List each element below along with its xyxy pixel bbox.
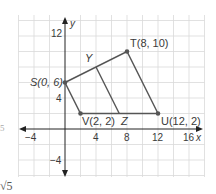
x-tick-neg4: −4	[25, 132, 37, 143]
y-axis-label: y	[69, 18, 76, 29]
x-tick-4: 4	[93, 132, 99, 143]
label-U: U(12, 2)	[161, 115, 201, 127]
label-T: T(8, 10)	[130, 37, 169, 49]
y-tick-neg4: −4	[50, 155, 62, 166]
y-tick-4: 4	[56, 93, 62, 104]
margin-sqrt5: √5	[0, 179, 13, 194]
y-tick-12: 12	[51, 28, 63, 39]
margin-mark: 5	[0, 123, 5, 133]
x-tick-16: 16	[183, 132, 195, 143]
point-S	[63, 80, 68, 85]
label-S: S(0, 6)	[30, 76, 63, 88]
grid	[19, 15, 205, 177]
label-V: V(2, 2)	[82, 115, 115, 127]
x-tick-12: 12	[152, 132, 164, 143]
label-Z: Z	[120, 115, 129, 127]
coordinate-plane: S(0, 6) T(8, 10) U(12, 2) V(2, 2) Y Z −4…	[0, 0, 216, 194]
point-U	[156, 111, 161, 116]
label-Y: Y	[85, 52, 93, 64]
x-axis-label: x	[195, 132, 202, 143]
x-tick-8: 8	[124, 132, 130, 143]
point-T	[125, 49, 130, 54]
segment-YZ	[96, 67, 119, 114]
y-axis-arrow-down-icon	[62, 170, 68, 177]
